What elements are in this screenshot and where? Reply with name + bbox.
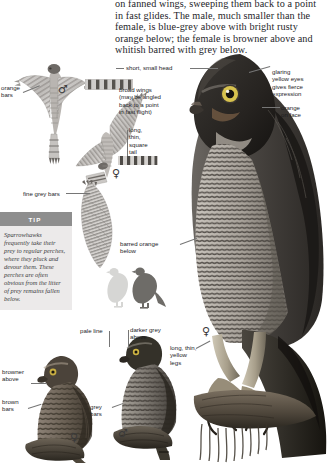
label-darker-grey-above: darker grey above [130, 326, 178, 341]
tip-body: Sparrowhawks frequently take their prey … [0, 226, 72, 310]
figure-female-tail-bars [118, 155, 158, 167]
label-long-thin-square-tail: long, thin, square tail [129, 126, 157, 156]
symbol-male-perched: ♂ [118, 428, 128, 439]
tip-box: TIP Sparrowhawks frequently take their p… [0, 212, 72, 310]
symbol-female-flight: ♀ [112, 168, 120, 179]
leader-fine-grey-bars [66, 193, 90, 194]
intro-paragraph: on fanned wings, sweeping them back to a… [115, 0, 323, 56]
symbol-female-perched: ♀ [70, 432, 78, 443]
leader-orange-on-face [262, 107, 280, 108]
symbol-female-portrait: ♀ [202, 326, 210, 337]
label-long-thin-yellow-legs: long, thin, yellow legs [170, 344, 218, 366]
field-guide-page: on fanned wings, sweeping them back to a… [0, 0, 329, 463]
label-broad-wings: broad wings (may be angled back to a poi… [119, 86, 181, 116]
label-browner-above: browner above [2, 368, 38, 383]
label-short-small-head: short, small head [126, 64, 198, 71]
figure-prey-silhouettes [104, 265, 176, 313]
leader-darker-grey-above [128, 330, 129, 348]
leader-short-small-head [190, 68, 218, 69]
leader-tail [127, 130, 128, 156]
label-brown-bars: brown bars [2, 398, 34, 413]
leader-pale-line [109, 331, 110, 347]
leader-short-small-head-2 [116, 68, 124, 69]
label-orange-on-face: orange on face [281, 104, 325, 119]
symbol-male-flight: ♂ [58, 84, 68, 95]
tip-heading: TIP [0, 212, 72, 226]
leader-browner-above [31, 383, 47, 384]
label-glaring-yellow-eyes: glaring yellow eyes gives fierce express… [272, 68, 324, 98]
label-barred-orange-below: barred orange below [120, 240, 182, 255]
